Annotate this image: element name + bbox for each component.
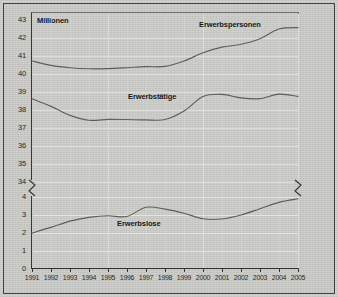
series-line-erwerbstätige <box>32 94 298 120</box>
chart-figure: Millionen 4342414039383736353443210 1991… <box>0 0 338 297</box>
series-line-erwerbspersonen <box>32 28 298 69</box>
data-lines <box>0 0 338 297</box>
series-line-erwerbslose <box>32 199 298 233</box>
